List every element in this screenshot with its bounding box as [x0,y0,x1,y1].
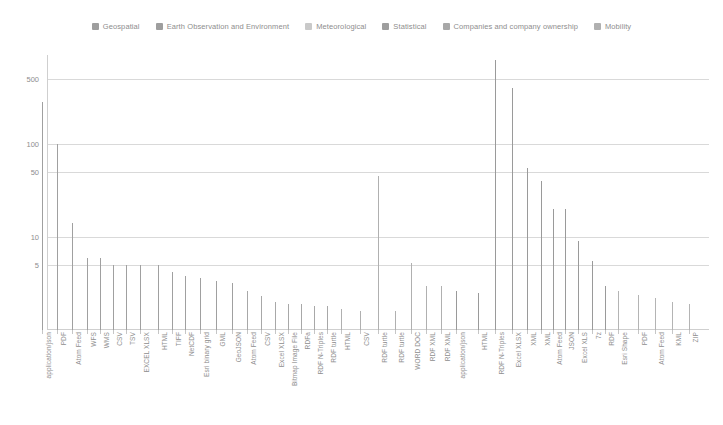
bars-container [47,55,709,330]
bar[interactable] [275,302,276,330]
legend-swatch-icon [92,23,99,30]
bar[interactable] [232,283,233,330]
bar[interactable] [172,272,173,330]
legend-swatch-icon [594,23,601,30]
legend-item-label: Companies and company ownership [454,22,578,31]
bar[interactable] [553,209,554,330]
bar[interactable] [57,144,58,330]
bar[interactable] [689,304,690,330]
legend-item-label: Earth Observation and Environment [167,22,290,31]
x-axis-tick-label: XML [544,332,551,346]
bar[interactable] [72,223,73,330]
bar[interactable] [395,311,396,330]
x-axis-tick-label: WORD DOC [414,332,421,370]
x-axis-tick-label: RDF turtle [330,332,337,363]
x-axis-tick-label: Atom Feed [250,332,257,365]
x-axis-tick-label: application/json [45,332,52,378]
x-axis-tick-label: PDF [60,332,67,345]
bar[interactable] [592,261,593,330]
legend-item-label: Geospatial [103,22,140,31]
legend-item[interactable]: Meteorological [305,22,366,31]
x-axis-tick-label: RDFa [304,332,311,349]
y-axis-tick-label: 5 [35,260,39,269]
bar[interactable] [140,265,141,330]
bar[interactable] [42,102,43,330]
bar[interactable] [247,291,248,330]
x-axis-tick-label: RDF XML [429,332,436,361]
legend-item[interactable]: Geospatial [92,22,140,31]
legend-item-label: Statistical [393,22,426,31]
bar[interactable] [185,276,186,330]
bar[interactable] [605,286,606,330]
bar[interactable] [478,293,479,330]
x-axis-tick-label: Bitmap Image File [291,332,298,386]
bar[interactable] [261,296,262,330]
bar[interactable] [495,60,496,330]
bar[interactable] [426,286,427,330]
bar[interactable] [378,176,379,330]
chart-legend: GeospatialEarth Observation and Environm… [0,22,723,31]
x-axis-tick-label: PDF [641,332,648,345]
bar[interactable] [87,258,88,330]
bar[interactable] [578,241,579,330]
legend-swatch-icon [443,23,450,30]
y-axis-tick-label: 500 [26,74,39,83]
bar[interactable] [638,295,639,330]
x-axis-tick-label: RDF XML [444,332,451,361]
x-axis-tick-label: Esri binary grid [203,332,210,377]
bar[interactable] [655,298,656,330]
bar[interactable] [158,265,159,330]
bar[interactable] [301,304,302,330]
plot-area [47,55,709,330]
bar[interactable] [512,88,513,330]
x-axis-tick-label: TSV [129,332,136,345]
x-axis-tick-label: HTML [481,332,488,350]
legend-swatch-icon [156,23,163,30]
bar[interactable] [618,291,619,330]
bar[interactable] [100,258,101,330]
y-axis-tick-label: 100 [26,139,39,148]
x-axis-tick-label: application/json [459,332,466,378]
x-axis-tick-label: GeoJSON [235,332,242,362]
bar[interactable] [411,263,412,330]
bar[interactable] [456,291,457,330]
bar[interactable] [200,278,201,330]
bar[interactable] [288,304,289,330]
x-axis-tick-label: CSV [116,332,123,346]
x-axis-tick-label: RDF N-Triples [317,332,324,375]
bar[interactable] [527,168,528,330]
x-axis-tick-label: WFS [90,332,97,347]
y-axis-tick-label: 10 [31,232,39,241]
x-axis-tick-label: CSV [363,332,370,346]
legend-item[interactable]: Statistical [382,22,426,31]
x-axis-tick [42,330,43,334]
legend-item[interactable]: Mobility [594,22,631,31]
x-axis-tick-label: GML [219,332,226,346]
bar[interactable] [216,281,217,331]
bar[interactable] [126,265,127,330]
x-axis-tick-label: Excel XLSX [278,332,285,367]
x-axis-tick-label: XML [530,332,537,346]
legend-item[interactable]: Companies and company ownership [443,22,578,31]
bar[interactable] [113,265,114,330]
x-axis-tick-label: RDF N-Triples [498,332,505,375]
bar[interactable] [541,181,542,330]
bar[interactable] [327,306,328,330]
bar[interactable] [672,302,673,330]
bar[interactable] [341,309,342,331]
x-axis-tick-label: NetCDF [188,332,195,356]
y-axis-labels: 51050100500 [0,55,45,330]
x-axis-tick-label: ZIP [692,332,699,342]
bar-chart: GeospatialEarth Observation and Environm… [0,0,723,425]
x-axis-tick-label: CSV [264,332,271,346]
bar[interactable] [441,286,442,330]
bar[interactable] [360,311,361,330]
x-axis-tick-label: Atom Feed [75,332,82,365]
x-axis-tick-label: Esri Shape [621,332,628,365]
x-axis-tick-label: HTML [344,332,351,350]
x-axis-tick-label: Excel XLS [581,332,588,363]
bar[interactable] [314,306,315,330]
bar[interactable] [565,209,566,330]
x-axis-tick-label: RDF turtle [381,332,388,363]
legend-item[interactable]: Earth Observation and Environment [156,22,290,31]
